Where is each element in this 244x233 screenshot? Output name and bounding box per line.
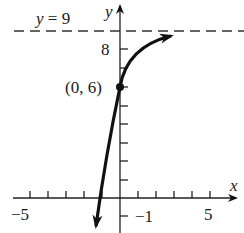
asymptote-label: y = 9 [34,9,70,28]
y-axis-label: y [103,2,113,21]
x-tick-label-neg5: −5 [11,205,29,224]
function-curve [120,36,171,87]
chart-canvas: y = 9 y x 8 (0, 6) −5 5 −1 [0,0,244,233]
x-axis-label: x [229,176,238,195]
point-marker [116,83,124,91]
x-tick-label-5: 5 [204,205,213,224]
y-tick-label-neg1: −1 [135,207,153,226]
y-tick-label-8: 8 [101,40,110,59]
point-label: (0, 6) [65,78,102,97]
function-curve-lower [96,87,120,226]
